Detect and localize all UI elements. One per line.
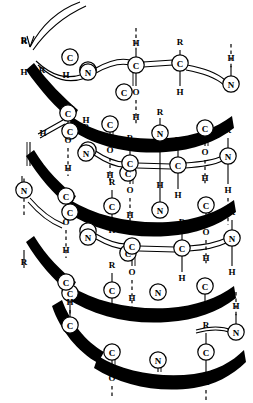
atom-n: N xyxy=(16,182,32,198)
substituent-label-h: H xyxy=(202,377,209,387)
atom-c: C xyxy=(104,282,120,298)
substituent-label-h: H xyxy=(228,267,235,277)
alpha-helix-figure: .rib-front{fill:#000;stroke:none;} .rib-… xyxy=(0,0,253,403)
atom-symbol: N xyxy=(83,149,90,159)
atom-symbol: C xyxy=(177,59,184,69)
atom-c: C xyxy=(58,274,74,290)
substituent-label-o: O xyxy=(154,373,161,383)
substituent-label-h: H xyxy=(227,53,234,63)
substituent-label-h: H xyxy=(108,307,115,317)
atom-symbol: N xyxy=(229,234,236,244)
substituent-label-h: H xyxy=(62,245,69,255)
substituent-label-h: H xyxy=(82,115,89,125)
substituent-label-h: H xyxy=(66,297,73,307)
atom-symbol: C xyxy=(65,109,72,119)
atom-n: N xyxy=(150,284,166,300)
atom-c: C xyxy=(197,120,213,136)
substituent-label-o: O xyxy=(132,87,139,97)
substituent-label-h: H xyxy=(174,190,181,200)
substituent-label-r: R xyxy=(177,37,184,47)
substituent-label-r: R xyxy=(203,320,210,330)
atom-c: C xyxy=(104,344,120,360)
atom-c: C xyxy=(116,84,132,100)
atom-n: N xyxy=(80,64,96,80)
atom-symbol: N xyxy=(225,152,232,162)
atom-n: N xyxy=(223,76,239,92)
atom-symbol: C xyxy=(202,282,209,292)
substituent-label-o: O xyxy=(106,145,113,155)
atom-symbol: C xyxy=(67,208,74,218)
substituent-label-h: H xyxy=(132,112,139,122)
atom-c: C xyxy=(170,157,186,173)
atom-symbol: C xyxy=(63,278,70,288)
atom-symbol: C xyxy=(67,53,74,63)
atom-symbol: C xyxy=(179,244,186,254)
atom-c: C xyxy=(128,57,144,73)
atom-symbol: C xyxy=(133,61,140,71)
atom-c: C xyxy=(198,197,214,213)
substituent-label-o: O xyxy=(64,135,71,145)
atom-symbol: N xyxy=(155,356,162,366)
atom-n: N xyxy=(224,230,240,246)
substituent-label-o: O xyxy=(201,147,208,157)
atom-symbol: C xyxy=(202,124,209,134)
substituent-label-h: H xyxy=(39,128,46,138)
substituent-label-o: O xyxy=(128,267,135,277)
atom-symbol: C xyxy=(109,348,116,358)
atom-symbol: C xyxy=(175,161,182,171)
atom-n: N xyxy=(228,324,244,340)
atom-c: C xyxy=(62,49,78,65)
atom-n: N xyxy=(80,229,96,245)
atom-n: N xyxy=(78,145,94,161)
substituent-label-o: O xyxy=(108,373,115,383)
atom-h: H xyxy=(62,70,69,80)
atom-c: C xyxy=(104,198,120,214)
atom-symbol: H xyxy=(62,70,69,80)
atom-symbol: C xyxy=(107,120,114,130)
atom-n: N xyxy=(152,202,168,218)
atom-c: C xyxy=(172,55,188,71)
atom-symbol: C xyxy=(121,88,128,98)
substituent-label-r: R xyxy=(21,35,28,45)
atom-c: C xyxy=(60,105,76,121)
atom-n: N xyxy=(220,148,236,164)
substituent-label-r: R xyxy=(109,260,116,270)
atom-n: N xyxy=(150,352,166,368)
substituent-label-h: H xyxy=(132,38,139,48)
atom-symbol: N xyxy=(157,206,164,216)
substituent-label-o: O xyxy=(202,227,209,237)
atom-symbol: C xyxy=(109,202,116,212)
substituent-label-h: H xyxy=(126,210,133,220)
substituent-label-h: H xyxy=(176,87,183,97)
figure-background xyxy=(0,0,253,403)
atom-symbol: C xyxy=(63,192,70,202)
substituent-label-r: R xyxy=(225,125,232,135)
substituent-label-r: R xyxy=(179,217,186,227)
atom-symbol: N xyxy=(228,80,235,90)
atom-c: C xyxy=(174,240,190,256)
substituent-label-o: O xyxy=(126,185,133,195)
substituent-label-h: H xyxy=(202,253,209,263)
substituent-label-h: H xyxy=(20,67,27,77)
substituent-label-r: R xyxy=(127,133,134,143)
atom-symbol: N xyxy=(85,233,92,243)
helix-diagram-canvas: .rib-front{fill:#000;stroke:none;} .rib-… xyxy=(0,0,253,403)
substituent-label-h: H xyxy=(128,293,135,303)
atom-c: C xyxy=(58,188,74,204)
atom-symbol: C xyxy=(129,242,136,252)
atom-c: C xyxy=(62,317,78,333)
substituent-label-h: H xyxy=(178,273,185,283)
substituent-label-r: R xyxy=(175,135,182,145)
atom-symbol: C xyxy=(67,321,74,331)
substituent-label-h: H xyxy=(224,185,231,195)
atom-symbol: C xyxy=(203,201,210,211)
atom-symbol: N xyxy=(157,129,164,139)
substituent-label-r: R xyxy=(157,107,164,117)
substituent-label-r: R xyxy=(21,257,28,267)
substituent-label-r: R xyxy=(39,65,46,75)
substituent-label-o: O xyxy=(62,217,69,227)
atom-c: C xyxy=(197,278,213,294)
atom-c: C xyxy=(122,155,138,171)
atom-symbol: N xyxy=(155,288,162,298)
atom-symbol: C xyxy=(203,348,210,358)
